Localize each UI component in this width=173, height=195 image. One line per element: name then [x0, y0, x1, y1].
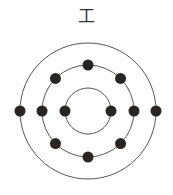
electron-dot [115, 138, 126, 149]
electron-dot [151, 106, 162, 117]
electron-dot [60, 106, 71, 117]
electron-dot [50, 138, 61, 149]
electron-dot [50, 73, 61, 84]
electron-dot [129, 106, 140, 117]
electron-dot [83, 60, 94, 71]
electron-dot [83, 152, 94, 163]
shell-ring-1 [65, 88, 111, 134]
electron-dot [37, 106, 48, 117]
electron-dot [15, 106, 26, 117]
electron-dot [106, 106, 117, 117]
electron-dot [115, 73, 126, 84]
atom-diagram [0, 0, 173, 195]
